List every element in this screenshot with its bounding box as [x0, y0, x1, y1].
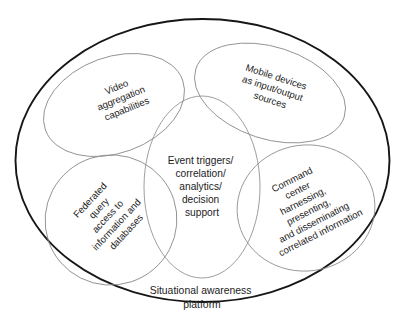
venn-diagram-canvas: Video aggregation capabilities Mobile de…	[0, 0, 399, 336]
label-line: Event triggers/	[168, 155, 234, 166]
label-line: decision	[182, 194, 219, 205]
label-situational-awareness-platform: Situational awareness platform	[150, 285, 255, 310]
label-line: correlation/	[175, 168, 226, 179]
label-mobile-devices: Mobile devices as input/output sources	[237, 61, 311, 115]
label-line: support	[185, 207, 219, 218]
label-video-aggregation: Video aggregation capabilities	[91, 71, 154, 123]
label-command-center: Command center harnessing, presenting, a…	[249, 152, 364, 257]
label-line: platform	[183, 299, 221, 310]
label-federated-query: Federated query access to information an…	[63, 170, 153, 261]
label-event-triggers: Event triggers/ correlation/ analytics/ …	[168, 155, 237, 218]
label-line: Situational awareness	[150, 285, 252, 296]
venn-diagram: Video aggregation capabilities Mobile de…	[0, 0, 399, 336]
label-line: analytics/	[179, 181, 222, 192]
